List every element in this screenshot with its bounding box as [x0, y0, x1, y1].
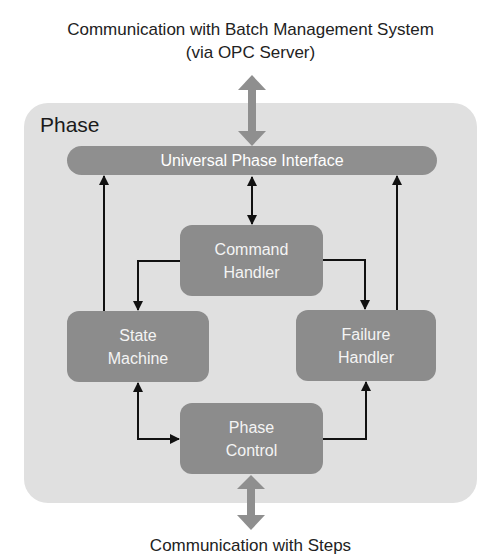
failure-handler-line2: Handler	[338, 346, 394, 369]
state-machine-line2: Machine	[108, 347, 168, 370]
bms-double-arrow-icon	[238, 75, 266, 146]
failure-handler-node: Failure Handler	[296, 310, 436, 381]
steps-double-arrow-icon	[237, 475, 265, 530]
phase-control-line1: Phase	[229, 416, 274, 439]
state-machine-node: State Machine	[67, 311, 209, 382]
state-phasecontrol-arrow	[138, 383, 179, 439]
command-handler-node: Command Handler	[180, 225, 323, 296]
bottom-caption: Communication with Steps	[0, 534, 501, 557]
state-machine-line1: State	[119, 324, 156, 347]
failure-handler-line1: Failure	[342, 323, 391, 346]
universal-phase-interface: Universal Phase Interface	[67, 146, 437, 175]
phase-control-line2: Control	[226, 439, 278, 462]
command-handler-line2: Handler	[223, 261, 279, 284]
command-handler-line1: Command	[215, 238, 289, 261]
phase-control-node: Phase Control	[180, 403, 323, 474]
phasecontrol-failure-arrow	[323, 382, 366, 439]
command-state-arrow	[138, 261, 180, 310]
command-failure-arrow	[323, 260, 365, 309]
